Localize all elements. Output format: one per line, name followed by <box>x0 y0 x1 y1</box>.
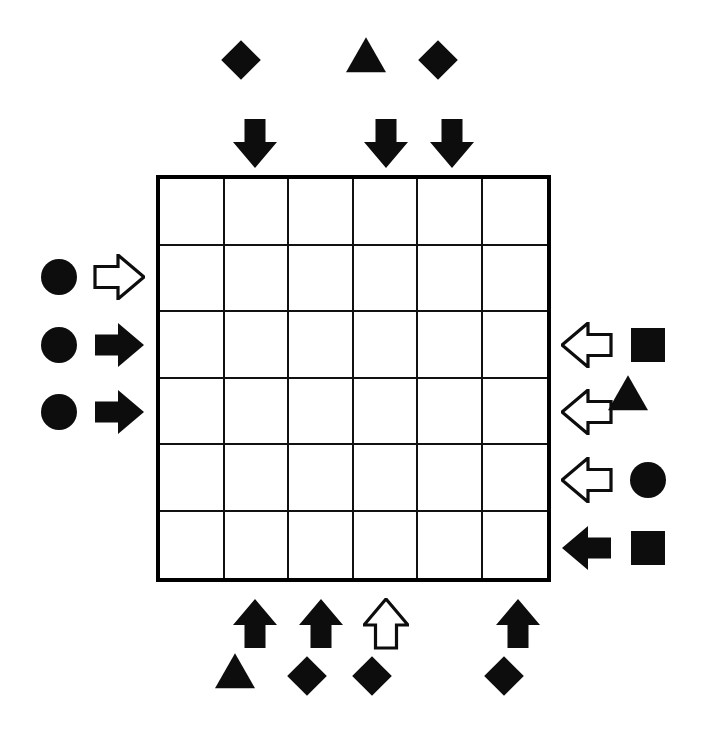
left-arrow-row2-glyph <box>93 254 145 300</box>
grid-cell-r4-c5[interactable] <box>418 379 483 446</box>
circle-shape-icon <box>41 327 77 363</box>
left-arrow-row3-glyph <box>93 322 145 368</box>
bottom-arrow-col6-glyph <box>495 598 541 650</box>
top-arrow-col4-glyph <box>363 117 409 169</box>
grid-cell-r2-c1[interactable] <box>160 246 225 313</box>
square-shape-icon <box>631 328 665 362</box>
diamond-shape-icon <box>221 40 261 80</box>
grid-cell-r4-c1[interactable] <box>160 379 225 446</box>
grid-cell-r3-c4[interactable] <box>354 312 419 379</box>
grid-cell-r1-c6[interactable] <box>483 179 548 246</box>
triangle-shape-icon <box>608 376 648 411</box>
bottom-shape-col4-glyph <box>372 676 400 704</box>
left-shape-row2-glyph <box>41 259 77 295</box>
grid-cell-r5-c5[interactable] <box>418 445 483 512</box>
right-shape-row6-glyph <box>631 531 665 565</box>
bottom-arrow-col4-glyph <box>363 598 409 650</box>
right-shape-row5-glyph <box>630 462 666 498</box>
grid-cell-r3-c2[interactable] <box>225 312 290 379</box>
grid-cell-r2-c3[interactable] <box>289 246 354 313</box>
grid-cell-r4-c2[interactable] <box>225 379 290 446</box>
triangle-shape-icon <box>346 37 386 72</box>
bottom-shape-col3-glyph <box>307 676 335 704</box>
grid-cell-r5-c3[interactable] <box>289 445 354 512</box>
grid-cell-r6-c2[interactable] <box>225 512 290 579</box>
circle-shape-icon <box>41 259 77 295</box>
grid-cell-r1-c2[interactable] <box>225 179 290 246</box>
diamond-shape-icon <box>418 40 458 80</box>
square-shape-icon <box>631 531 665 565</box>
right-arrow-row3-glyph <box>561 322 613 368</box>
grid-cell-r5-c2[interactable] <box>225 445 290 512</box>
triangle-shape-icon <box>215 653 255 688</box>
top-arrow-col5-glyph <box>429 117 475 169</box>
left-arrow-row4-glyph <box>93 389 145 435</box>
grid-cell-r5-c6[interactable] <box>483 445 548 512</box>
diamond-shape-icon <box>484 656 524 696</box>
grid-cell-r2-c5[interactable] <box>418 246 483 313</box>
grid-cell-r2-c6[interactable] <box>483 246 548 313</box>
grid-cell-r1-c1[interactable] <box>160 179 225 246</box>
grid-cell-r6-c1[interactable] <box>160 512 225 579</box>
left-shape-row4-glyph <box>41 394 77 430</box>
grid-cell-r2-c4[interactable] <box>354 246 419 313</box>
diamond-shape-icon <box>353 656 393 696</box>
grid-cell-r1-c5[interactable] <box>418 179 483 246</box>
grid-cell-r5-c4[interactable] <box>354 445 419 512</box>
grid-cell-r1-c4[interactable] <box>354 179 419 246</box>
grid-cell-r3-c6[interactable] <box>483 312 548 379</box>
right-arrow-row5-glyph <box>561 457 613 503</box>
right-shape-row3-glyph <box>631 328 665 362</box>
top-shape-col4-glyph <box>366 57 406 92</box>
grid-cell-r3-c1[interactable] <box>160 312 225 379</box>
grid-cell-r6-c6[interactable] <box>483 512 548 579</box>
bottom-shape-col6-glyph <box>504 676 532 704</box>
grid-cell-r2-c2[interactable] <box>225 246 290 313</box>
left-shape-row3-glyph <box>41 327 77 363</box>
grid-cell-r6-c4[interactable] <box>354 512 419 579</box>
grid-cell-r6-c3[interactable] <box>289 512 354 579</box>
grid-cell-r5-c1[interactable] <box>160 445 225 512</box>
circle-shape-icon <box>630 462 666 498</box>
right-shape-row4-glyph <box>628 395 668 430</box>
top-arrow-col2-glyph <box>232 117 278 169</box>
bottom-arrow-col2-glyph <box>232 598 278 650</box>
bottom-shape-col2-glyph <box>235 673 275 708</box>
top-shape-col5-glyph <box>438 60 466 88</box>
grid-cell-r6-c5[interactable] <box>418 512 483 579</box>
circle-shape-icon <box>41 394 77 430</box>
grid-cell-r1-c3[interactable] <box>289 179 354 246</box>
top-shape-col2-glyph <box>241 60 269 88</box>
diamond-shape-icon <box>287 656 327 696</box>
grid-cell-r3-c3[interactable] <box>289 312 354 379</box>
right-arrow-row4-glyph <box>561 389 613 435</box>
puzzle-grid[interactable] <box>156 175 551 582</box>
grid-cell-r4-c4[interactable] <box>354 379 419 446</box>
grid-cell-r4-c3[interactable] <box>289 379 354 446</box>
grid-cell-r3-c5[interactable] <box>418 312 483 379</box>
puzzle-canvas <box>0 0 710 744</box>
grid-cell-r4-c6[interactable] <box>483 379 548 446</box>
bottom-arrow-col3-glyph <box>298 598 344 650</box>
right-arrow-row6-glyph <box>561 525 613 571</box>
